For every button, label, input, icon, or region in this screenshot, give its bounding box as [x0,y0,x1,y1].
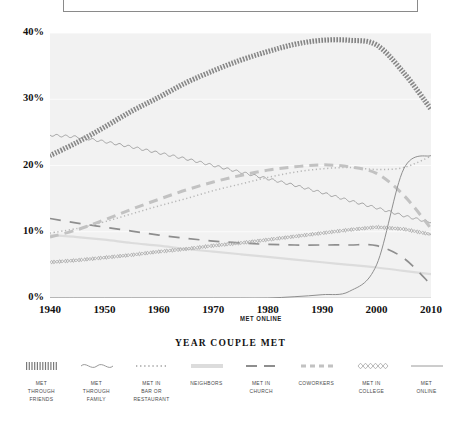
series-line [50,235,431,274]
series-met-through-friends [50,40,431,156]
y-tick-label: 0% [4,291,44,302]
y-tick-label: 10% [4,225,44,236]
legend-item-met-online[interactable]: MET ONLINE [399,360,454,395]
series-neighbors [50,235,431,274]
legend-swatch-dashed-icon [295,360,339,372]
series-line [50,40,431,156]
legend-label: COWORKERS [299,379,335,387]
legend-label: MET THROUGH FAMILY [83,379,110,403]
series-line [50,134,431,222]
top-frame-box [63,0,418,12]
legend-swatch-dotted-icon [130,360,174,372]
x-tick-label: 1960 [129,303,189,315]
legend-label: MET IN CHURCH [250,379,273,395]
legend-item-neighbors[interactable]: NEIGHBORS [179,360,234,387]
series-met-through-family [50,134,431,222]
series-line [50,156,431,233]
legend-label: MET THROUGH FRIENDS [28,379,55,403]
x-axis-title: YEAR COUPLE MET [0,338,461,348]
x-tick-label: 1990 [292,303,352,315]
legend-item-met-through-friends[interactable]: MET THROUGH FRIENDS [14,360,69,403]
legend-swatch-wavy-icon [75,360,119,372]
legend-item-met-through-family[interactable]: MET THROUGH FAMILY [69,360,124,403]
legend-label: NEIGHBORS [190,379,222,387]
series-line [50,40,431,156]
legend-item-met-in-church[interactable]: MET IN CHURCH [234,360,289,395]
x-tick-label: 2010 [401,303,461,315]
y-tick-label: 40% [4,26,44,37]
legend-label: MET IN BAR OR RESTAURANT [133,379,169,403]
x-tick-label: 1980 [238,303,298,315]
chart-legend: MET THROUGH FRIENDSMET THROUGH FAMILYMET… [14,360,454,430]
legend-label: MET ONLINE [416,379,436,395]
legend-item-coworkers[interactable]: COWORKERS [289,360,344,387]
legend-swatch-faint-icon [185,360,229,372]
met-online-annotation: MET ONLINE [240,315,282,322]
chart-canvas [50,33,431,298]
x-tick-label: 1970 [183,303,243,315]
x-tick-label: 2000 [347,303,407,315]
y-tick-label: 30% [4,92,44,103]
x-tick-label: 1950 [74,303,134,315]
legend-item-met-in-college[interactable]: MET IN COLLEGE [344,360,399,395]
legend-swatch-longdash-icon [240,360,284,372]
legend-swatch-solid-icon [405,360,449,372]
chart-figure: PERCENTAGE WHO MET THIS WAY 0%10%20%30%4… [0,0,461,441]
plot-area: MET ONLINE [50,33,431,298]
legend-swatch-hatched-icon [20,360,64,372]
x-tick-label: 1940 [20,303,80,315]
series-line [50,40,431,156]
legend-swatch-diamond-icon [350,360,394,372]
legend-label: MET IN COLLEGE [359,379,384,395]
legend-item-met-in-bar-or-restaurant[interactable]: MET IN BAR OR RESTAURANT [124,360,179,403]
series-met-in-bar-or-restaurant [50,156,431,233]
series-layer [50,40,431,298]
y-tick-label: 20% [4,159,44,170]
